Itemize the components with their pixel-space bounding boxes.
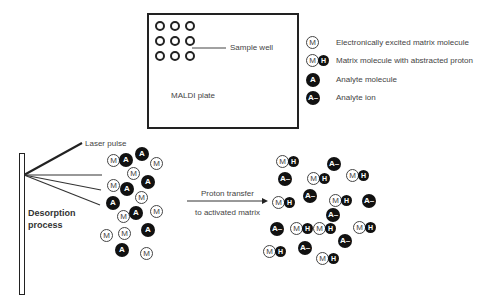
sample-well bbox=[155, 36, 165, 46]
laser-beam-main bbox=[24, 143, 82, 175]
matrix-proton-icon: MH bbox=[316, 252, 339, 265]
analyte-ion-icon: A– bbox=[338, 234, 352, 248]
analyte-molecule-icon: A bbox=[115, 243, 129, 257]
sample-well bbox=[170, 21, 180, 31]
analyte-molecule-icon: A bbox=[129, 206, 143, 220]
analyte-ion-icon: A– bbox=[278, 172, 292, 186]
legend-label-analyte-ion: Analyte ion bbox=[336, 93, 376, 102]
proton-circle-icon: H bbox=[284, 197, 295, 208]
sample-well bbox=[170, 36, 180, 46]
legend-analyte-icon: A bbox=[306, 73, 320, 87]
analyte-ion-icon: A– bbox=[327, 157, 341, 171]
sample-well bbox=[170, 51, 180, 61]
legend-matrix-icon: M bbox=[306, 36, 319, 49]
arrow-head-icon bbox=[262, 198, 268, 204]
analyte-ion-icon: A– bbox=[362, 194, 376, 208]
matrix-proton-icon: MH bbox=[313, 222, 336, 235]
activated-matrix-label: to activated matrix bbox=[195, 208, 260, 217]
matrix-molecule-icon: M bbox=[118, 227, 131, 240]
proton-circle-icon: H bbox=[288, 156, 299, 167]
legend-label-matrix-proton: Matrix molecule with abstracted proton bbox=[336, 56, 473, 65]
matrix-molecule-icon: M bbox=[100, 229, 113, 242]
matrix-proton-icon: MH bbox=[307, 172, 330, 185]
sample-well bbox=[185, 36, 195, 46]
desorption-label-line1: Desorption bbox=[28, 207, 76, 219]
proton-circle-icon: H bbox=[275, 246, 286, 257]
analyte-molecule-icon: A bbox=[106, 196, 120, 210]
analyte-ion-icon: A– bbox=[270, 222, 284, 236]
matrix-molecule-icon: M bbox=[150, 205, 163, 218]
laser-pulse-label: Laser pulse bbox=[85, 139, 126, 148]
proton-circle-icon: H bbox=[341, 195, 352, 206]
proton-circle-icon: H bbox=[365, 222, 376, 233]
sample-well bbox=[155, 21, 165, 31]
sample-well bbox=[155, 51, 165, 61]
legend-label-analyte: Analyte molecule bbox=[336, 75, 397, 84]
proton-circle-icon: H bbox=[318, 55, 329, 66]
proton-circle-icon: H bbox=[328, 253, 339, 264]
matrix-proton-icon: MH bbox=[263, 245, 286, 258]
legend-analyte-ion-icon: A– bbox=[306, 91, 320, 105]
matrix-molecule-icon: M bbox=[127, 167, 140, 180]
desorption-process-label: Desorption process bbox=[28, 207, 76, 231]
matrix-proton-icon: MH bbox=[346, 169, 369, 182]
analyte-molecule-icon: A bbox=[119, 153, 133, 167]
proton-circle-icon: H bbox=[358, 170, 369, 181]
sample-well bbox=[185, 51, 195, 61]
proton-circle-icon: H bbox=[302, 223, 313, 234]
matrix-proton-icon: MH bbox=[272, 196, 295, 209]
matrix-molecule-icon: M bbox=[150, 157, 163, 170]
proton-transfer-label: Proton transfer bbox=[201, 189, 254, 198]
matrix-proton-icon: MH bbox=[276, 155, 299, 168]
legend-matrix-proton-icon: M H bbox=[306, 54, 329, 67]
analyte-molecule-icon: A bbox=[120, 182, 134, 196]
matrix-molecule-icon: M bbox=[135, 191, 148, 204]
sample-well bbox=[185, 21, 195, 31]
proton-circle-icon: H bbox=[325, 223, 336, 234]
target-plate-bar bbox=[19, 153, 25, 295]
analyte-ion-icon: A– bbox=[326, 208, 340, 222]
maldi-plate-label: MALDI plate bbox=[171, 91, 215, 100]
laser-reflection-2 bbox=[24, 175, 101, 190]
analyte-ion-icon: A– bbox=[303, 189, 317, 203]
analyte-molecule-icon: A bbox=[141, 175, 155, 189]
laser-reflection-3 bbox=[24, 175, 100, 205]
proton-circle-icon: H bbox=[319, 173, 330, 184]
analyte-molecule-icon: A bbox=[135, 147, 149, 161]
desorption-label-line2: process bbox=[28, 219, 76, 231]
matrix-molecule-icon: M bbox=[107, 179, 120, 192]
maldi-plate: MALDI plate bbox=[147, 13, 299, 129]
matrix-proton-icon: MH bbox=[353, 221, 376, 234]
matrix-proton-icon: MH bbox=[290, 222, 313, 235]
analyte-ion-icon: A– bbox=[298, 241, 312, 255]
analyte-molecule-icon: A bbox=[141, 223, 155, 237]
sample-well-label: Sample well bbox=[230, 43, 273, 52]
matrix-proton-icon: MH bbox=[329, 194, 352, 207]
matrix-molecule-icon: M bbox=[140, 247, 153, 260]
legend: M Electronically excited matrix molecule… bbox=[306, 36, 486, 126]
legend-label-matrix: Electronically excited matrix molecule bbox=[336, 38, 469, 47]
